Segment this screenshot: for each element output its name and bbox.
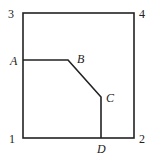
corner-label-2: 2 xyxy=(139,132,145,146)
point-label-b: B xyxy=(77,52,85,66)
point-label-c: C xyxy=(106,91,115,105)
path-a-b-c-d xyxy=(23,60,101,138)
point-label-a: A xyxy=(9,54,18,68)
geometry-diagram: 3 4 1 2 A B C D xyxy=(0,0,156,159)
point-label-d: D xyxy=(96,142,106,156)
outer-rectangle xyxy=(23,13,134,138)
corner-label-1: 1 xyxy=(9,132,15,146)
corner-label-4: 4 xyxy=(139,7,145,21)
corner-label-3: 3 xyxy=(8,7,14,21)
